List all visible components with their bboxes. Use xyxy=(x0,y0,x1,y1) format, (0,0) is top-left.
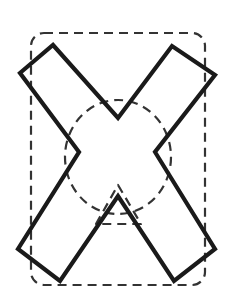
canvas-background xyxy=(0,0,239,292)
figure-canvas xyxy=(0,0,239,292)
figure-root: plus 3 points xyxy=(0,0,239,292)
